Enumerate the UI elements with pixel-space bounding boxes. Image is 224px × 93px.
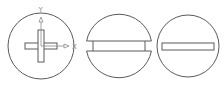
y-axis-label: Y xyxy=(38,6,44,14)
slot xyxy=(162,43,214,50)
lower-half xyxy=(87,51,152,78)
split-slot-head-view xyxy=(87,14,152,77)
slot-head-view xyxy=(157,15,219,77)
screw-heads-diagram: Y X xyxy=(0,0,224,93)
y-axis-arrow-icon xyxy=(39,17,43,22)
upper-half xyxy=(87,14,152,41)
x-axis-label: X xyxy=(72,43,77,51)
cross-head-view: Y X xyxy=(8,6,77,79)
x-axis-arrow-icon xyxy=(64,44,69,48)
